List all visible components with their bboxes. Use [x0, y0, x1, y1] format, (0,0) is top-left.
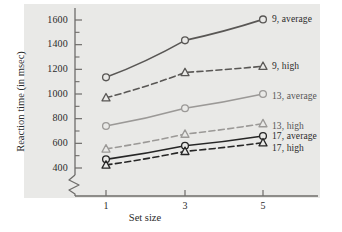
x-tick-label: 3 — [170, 200, 200, 211]
series-label-9-average: 9, average — [272, 14, 312, 24]
x-tick-label: 5 — [248, 200, 278, 211]
y-tick-label: 600 — [18, 137, 68, 148]
data-point-triangle-marker — [259, 119, 267, 126]
data-point-triangle-marker — [259, 62, 267, 69]
series-13-average — [103, 91, 267, 130]
series-label-13-average: 13, average — [272, 91, 317, 101]
y-axis-title: Reaction time (in msec) — [15, 27, 26, 177]
series-group — [102, 16, 267, 168]
data-point-circle-marker — [260, 91, 267, 98]
data-point-circle-marker — [260, 16, 267, 23]
series-label-13-high: 13, high — [272, 121, 304, 131]
data-point-triangle-marker — [259, 139, 267, 146]
y-tick-label: 1000 — [18, 88, 68, 99]
x-axis-title: Set size — [0, 212, 290, 223]
y-tick-label: 1400 — [18, 38, 68, 49]
reaction-time-chart: 4006008001000120014001600 135 9, average… — [0, 0, 342, 232]
data-point-circle-marker — [182, 105, 189, 112]
data-point-triangle-marker — [181, 130, 189, 137]
y-axis-break-symbol — [69, 175, 79, 196]
data-point-circle-marker — [182, 37, 189, 44]
series-label-9-high: 9, high — [272, 61, 299, 71]
y-tick-label: 1200 — [18, 63, 68, 74]
data-point-circle-marker — [103, 74, 110, 81]
data-point-circle-marker — [103, 123, 110, 130]
series-9-high — [102, 62, 267, 101]
y-tick-label: 400 — [18, 162, 68, 173]
series-label-17-high: 17, high — [272, 143, 304, 153]
series-label-17-average: 17, average — [272, 131, 317, 141]
x-tick-label: 1 — [91, 200, 121, 211]
y-tick-label: 1600 — [18, 14, 68, 25]
y-tick-label: 800 — [18, 112, 68, 123]
